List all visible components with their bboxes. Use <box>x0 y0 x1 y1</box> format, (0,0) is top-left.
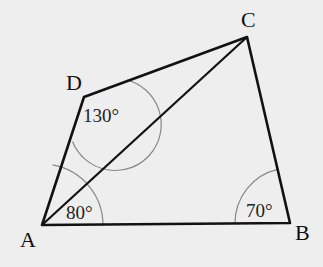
vertex-label-a: A <box>20 227 36 252</box>
vertex-label-b: B <box>295 220 310 245</box>
vertex-label-c: C <box>241 7 256 32</box>
quadrilateral-diagram: A B C D 80° 70° 130° <box>0 0 323 267</box>
angle-label-a: 80° <box>66 202 93 223</box>
angle-label-d: 130° <box>83 105 119 126</box>
quadrilateral-abcd <box>42 37 290 225</box>
angle-label-b: 70° <box>246 200 273 221</box>
vertex-label-d: D <box>66 70 82 95</box>
